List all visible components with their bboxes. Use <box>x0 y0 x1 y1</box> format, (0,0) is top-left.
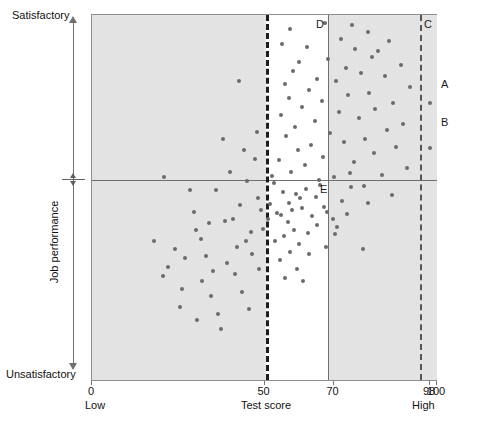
data-point <box>307 88 311 92</box>
data-point <box>401 122 405 126</box>
data-point <box>211 269 215 273</box>
data-point <box>225 261 229 265</box>
data-point <box>300 206 304 210</box>
x-axis-tick-label: 70 <box>326 385 338 397</box>
data-point <box>281 190 285 194</box>
data-point <box>309 143 313 147</box>
data-point <box>385 128 389 132</box>
data-point <box>289 170 293 174</box>
data-point <box>183 256 187 260</box>
data-point <box>287 96 291 100</box>
data-point <box>331 217 335 221</box>
data-point <box>301 279 305 283</box>
data-point <box>366 30 370 34</box>
data-point <box>294 192 298 196</box>
region-label-d: D <box>316 19 324 30</box>
data-point <box>310 214 314 218</box>
region-label-a: A <box>441 79 448 90</box>
data-point <box>342 140 346 144</box>
data-point <box>345 212 349 216</box>
test-cutoff-70-line <box>328 15 329 380</box>
data-point <box>321 155 325 159</box>
performance-cutoff-line <box>92 180 437 181</box>
scatter-plot-figure: Satisfactory Unsatisfactory Job performa… <box>0 0 480 424</box>
data-point <box>282 234 286 238</box>
data-point <box>256 196 260 200</box>
data-point <box>180 287 184 291</box>
data-point <box>266 217 270 221</box>
y-axis-cutoff-tick <box>62 179 85 180</box>
data-point <box>286 220 290 224</box>
data-point <box>237 79 241 83</box>
data-point <box>408 85 412 89</box>
data-point <box>275 211 279 215</box>
region-label-e: E <box>320 184 327 195</box>
y-axis-bottom-label: Unsatisfactory <box>6 368 76 380</box>
x-axis-tick-label: 0 <box>88 385 94 397</box>
data-point <box>284 134 288 138</box>
data-point <box>366 201 370 205</box>
data-point <box>337 110 341 114</box>
data-point <box>279 213 283 217</box>
data-point <box>249 230 253 234</box>
x-axis-low-label: Low <box>85 399 105 411</box>
test-cutoff-98-line <box>420 15 422 380</box>
data-point <box>279 113 283 117</box>
data-point <box>244 239 248 243</box>
data-point <box>204 254 208 258</box>
data-point <box>350 23 354 27</box>
data-point <box>272 181 276 185</box>
y-axis-title: Job performance <box>48 182 60 302</box>
data-point <box>315 77 319 81</box>
data-point <box>344 66 348 70</box>
x-axis-tick-label: 50 <box>257 385 269 397</box>
data-point <box>306 231 310 235</box>
data-point <box>273 239 277 243</box>
y-axis-cutoff-up-arrow-icon <box>70 173 76 178</box>
data-point <box>277 158 281 162</box>
data-point <box>307 252 311 256</box>
data-point <box>296 148 300 152</box>
data-point <box>353 47 357 51</box>
data-point <box>303 163 307 167</box>
data-point <box>304 187 308 191</box>
data-point <box>268 202 272 206</box>
data-point <box>314 195 318 199</box>
data-point <box>173 247 177 251</box>
data-point <box>317 178 321 182</box>
data-point <box>298 196 302 200</box>
data-point <box>166 265 170 269</box>
data-point <box>320 99 324 103</box>
data-point <box>348 171 352 175</box>
data-point <box>339 37 343 41</box>
x-axis-high-label: High <box>412 399 435 411</box>
data-point <box>161 274 165 278</box>
data-point <box>247 307 251 311</box>
plot-area <box>91 14 437 381</box>
data-point <box>380 173 384 177</box>
region-label-c: C <box>424 19 432 30</box>
data-point <box>178 305 182 309</box>
data-point <box>287 201 291 205</box>
shaded-quadrant-top-left <box>92 15 266 180</box>
data-point <box>288 250 292 254</box>
data-point <box>297 242 301 246</box>
data-point <box>283 82 287 86</box>
y-axis-top-label: Satisfactory <box>12 9 69 21</box>
data-point <box>428 101 432 105</box>
data-point <box>328 131 332 135</box>
data-point <box>297 60 301 64</box>
y-axis-up-arrow-icon <box>69 16 77 23</box>
data-point <box>291 69 295 73</box>
region-label-b: B <box>441 117 448 128</box>
data-point <box>194 228 198 232</box>
data-point <box>295 267 299 271</box>
data-point <box>290 208 294 212</box>
y-axis-line <box>73 22 74 369</box>
data-point <box>283 276 287 280</box>
data-point <box>322 205 326 209</box>
x-axis-title: Test score <box>241 399 291 411</box>
data-point <box>363 137 367 141</box>
data-point <box>288 27 292 31</box>
data-point <box>387 39 391 43</box>
